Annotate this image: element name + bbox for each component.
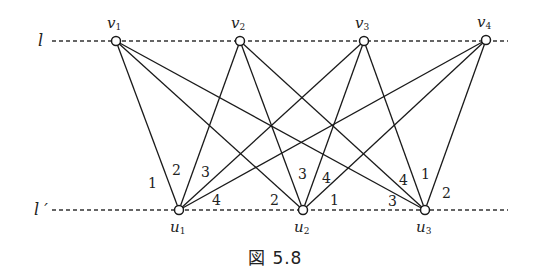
- edge-label-v4-u3: 2: [442, 185, 451, 201]
- graph-edges: [116, 40, 486, 210]
- edge-label-v1-u3: 3: [388, 193, 397, 209]
- node-u3: [421, 206, 430, 215]
- line-l-prime-label: l ′: [34, 200, 48, 219]
- bipartite-graph-diagram: ll ′ v1v2v3v4u1u2u3 123423413412 図 5.8: [0, 0, 534, 271]
- edge-label-v3-u2: 4: [322, 170, 331, 186]
- figure-caption: 図 5.8: [248, 248, 302, 268]
- graph-nodes: v1v2v3v4u1u2u3: [107, 13, 491, 236]
- edge-label-v4-u1: 4: [212, 192, 221, 208]
- edge-label-v1-u1: 1: [148, 175, 157, 191]
- edge-v3-u3: [364, 41, 425, 210]
- edge-v2-u3: [240, 41, 425, 210]
- node-u1: [175, 206, 184, 215]
- line-l-label: l: [38, 31, 43, 50]
- node-v3: [360, 37, 369, 46]
- edge-label-v2-u3: 4: [399, 172, 408, 188]
- node-label-v2: v2: [231, 14, 245, 32]
- node-label-u3: u3: [416, 218, 432, 236]
- edge-label-v3-u3: 1: [421, 166, 430, 182]
- edge-v4-u3: [425, 40, 486, 210]
- node-label-v1: v1: [107, 14, 121, 32]
- edge-label-v2-u1: 2: [172, 162, 181, 178]
- node-label-v4: v4: [477, 13, 491, 31]
- edge-v1-u2: [116, 41, 303, 210]
- edge-v3-u2: [303, 41, 364, 210]
- edge-label-v4-u2: 1: [330, 192, 339, 208]
- node-label-v3: v3: [355, 14, 369, 32]
- edge-label-v3-u1: 3: [201, 164, 210, 180]
- edge-label-v2-u2: 3: [298, 166, 307, 182]
- node-v1: [112, 37, 121, 46]
- edge-label-v1-u2: 2: [270, 192, 279, 208]
- edge-v1-u3: [116, 41, 425, 210]
- node-label-u1: u1: [170, 218, 185, 236]
- node-label-u2: u2: [294, 218, 309, 236]
- node-v2: [236, 37, 245, 46]
- node-v4: [482, 36, 491, 45]
- node-u2: [299, 206, 308, 215]
